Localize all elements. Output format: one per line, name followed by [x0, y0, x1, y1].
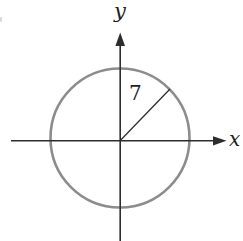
axes-group — [11, 43, 215, 241]
circle-radius-diagram: y x 7 — [0, 0, 243, 241]
radius-line — [121, 89, 171, 140]
y-axis-arrowhead — [115, 33, 125, 47]
x-axis-label: x — [229, 129, 240, 149]
x-axis-arrowhead — [213, 136, 227, 145]
radius-label: 7 — [129, 83, 142, 103]
edge-artifact — [0, 17, 2, 22]
diagram-canvas — [0, 0, 243, 241]
y-axis-label: y — [108, 1, 132, 22]
